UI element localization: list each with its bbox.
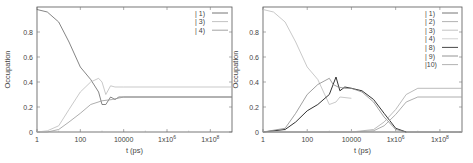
y-tick-label: 0.8 bbox=[249, 29, 259, 36]
y-tick-label: 0.6 bbox=[249, 54, 259, 61]
legend-label: | 3) bbox=[195, 18, 205, 26]
legend-label: | 4) bbox=[425, 35, 435, 43]
legend-label: | 1) bbox=[195, 10, 205, 18]
y-tick-label: 0 bbox=[29, 129, 33, 136]
y-tick-label: 0.8 bbox=[23, 29, 33, 36]
x-tick-label: 1 bbox=[261, 136, 265, 143]
x-tick-label: 100 bbox=[301, 136, 313, 143]
y-tick-label: 0.2 bbox=[23, 104, 33, 111]
y-tick-label: 0 bbox=[255, 129, 259, 136]
series-line bbox=[263, 88, 462, 132]
x-tick-label: 1 bbox=[35, 136, 39, 143]
legend-label: | 3) bbox=[425, 27, 435, 35]
x-tick-label: 1x108 bbox=[201, 134, 219, 143]
chart-canvas: 00.20.40.60.81100100001x1061x108t (ps)Oc… bbox=[0, 0, 473, 163]
x-axis-label: t (ps) bbox=[126, 146, 144, 155]
legend-label: | 2) bbox=[425, 18, 435, 26]
x-tick-label: 1x106 bbox=[158, 134, 176, 143]
y-axis-label: Occupation bbox=[231, 51, 240, 89]
legend-label: |10) bbox=[425, 61, 437, 69]
y-tick-label: 0.4 bbox=[23, 79, 33, 86]
y-tick-label: 0.4 bbox=[249, 79, 259, 86]
x-tick-label: 10000 bbox=[342, 136, 362, 143]
legend-label: | 4) bbox=[195, 27, 205, 35]
legend-label: | 8) bbox=[425, 44, 435, 52]
y-tick-label: 0.2 bbox=[249, 104, 259, 111]
x-axis-label: t (ps) bbox=[354, 146, 372, 155]
x-tick-label: 1x108 bbox=[431, 134, 449, 143]
y-tick-label: 0.6 bbox=[23, 54, 33, 61]
series-line bbox=[263, 97, 462, 132]
series-line bbox=[263, 10, 351, 105]
legend-label: | 9) bbox=[425, 53, 435, 61]
y-axis-label: Occupation bbox=[3, 51, 12, 89]
x-tick-label: 10000 bbox=[114, 136, 134, 143]
x-tick-label: 100 bbox=[74, 136, 86, 143]
x-tick-label: 1x106 bbox=[387, 134, 405, 143]
legend-label: | 1) bbox=[425, 10, 435, 18]
